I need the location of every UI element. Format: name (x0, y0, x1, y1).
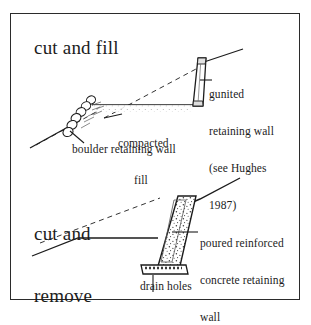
label-compacted-fill: compacted fill (118, 112, 169, 211)
label-gunited-line-4: 1987) (209, 199, 274, 211)
label-poured-concrete-line-2: concrete retaining (200, 274, 285, 286)
panel-title-cut-and-fill: cut and fill (34, 38, 119, 59)
label-compacted-fill-line-2: fill (134, 174, 169, 186)
label-poured-concrete-line-1: poured reinforced (200, 237, 285, 249)
label-gunited-line-3: (see Hughes (209, 162, 274, 174)
label-gunited-retaining-wall: gunited retaining wall (see Hughes 1987) (209, 63, 274, 237)
label-drain-holes: drain holes (140, 280, 192, 292)
panel-title-cut-and-remove-line-1: cut and (34, 224, 92, 245)
panel-title-cut-and-remove: cut and remove (34, 183, 92, 325)
label-boulder-retaining-wall: boulder retaining wall (72, 143, 176, 155)
panel-title-cut-and-remove-line-2: remove (34, 286, 92, 307)
label-poured-reinforced-concrete: poured reinforced concrete retaining wal… (200, 212, 285, 325)
label-gunited-line-2: retaining wall (209, 125, 274, 137)
label-gunited-line-1: gunited (209, 88, 274, 100)
label-poured-concrete-line-3: wall (200, 311, 285, 323)
